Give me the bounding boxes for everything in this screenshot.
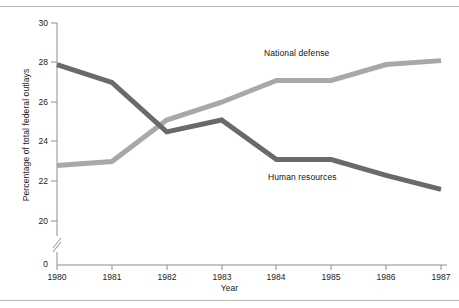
chart-figure: Percentage of total federal outlays Year… — [0, 0, 459, 308]
plot-area — [0, 0, 459, 308]
series-line-human-resources — [57, 65, 441, 190]
y-tick-marks — [51, 23, 57, 221]
axis-break-mark — [53, 238, 61, 252]
axes-group — [51, 23, 447, 270]
series-line-national-defense — [57, 61, 441, 166]
series-lines-group — [57, 61, 441, 190]
x-tick-marks — [57, 265, 441, 270]
